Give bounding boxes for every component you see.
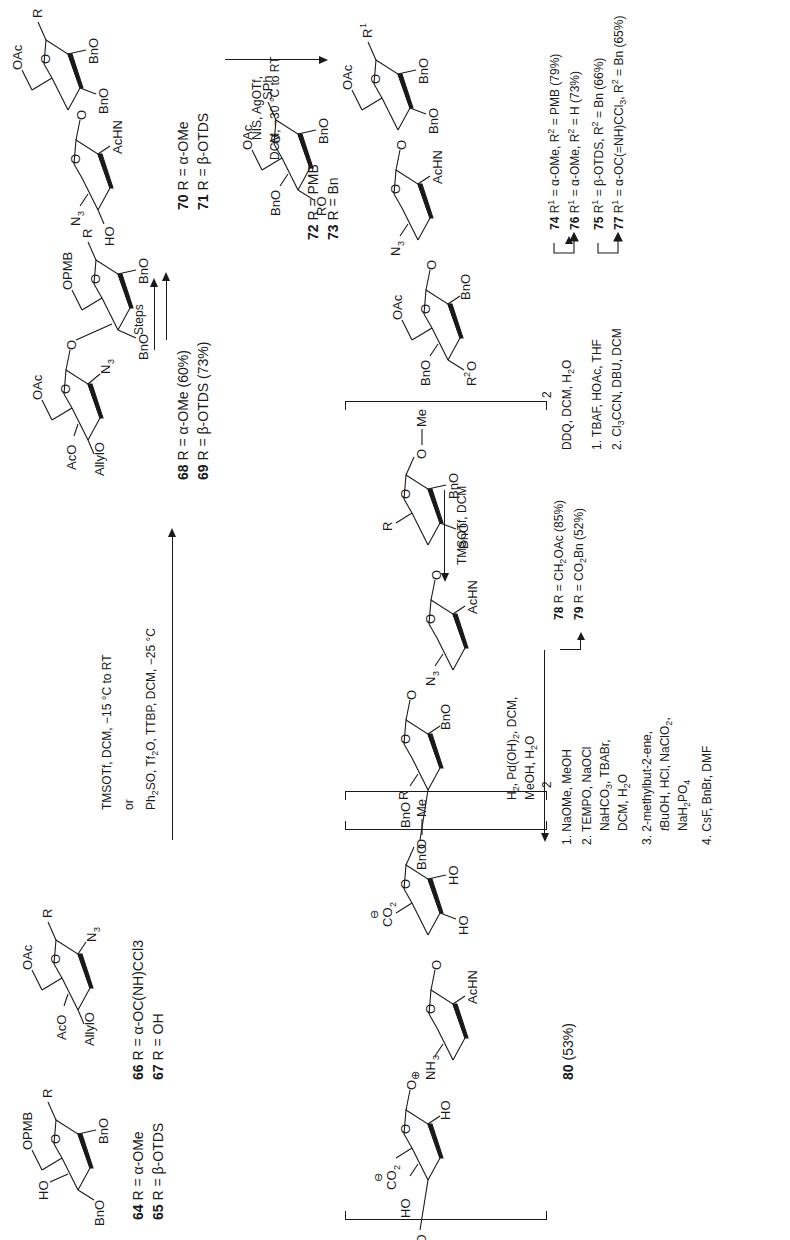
svg-text:3: 3 [431,1055,441,1060]
svg-text:CO: CO [380,908,395,928]
svg-text:AcHN: AcHN [430,150,445,184]
svg-text:3: 3 [431,671,441,676]
svg-text:BnO: BnO [418,360,433,386]
svg-text:O: O [398,734,413,744]
svg-text:3: 3 [92,927,102,932]
svg-text:3: 3 [106,359,116,364]
svg-text:O: O [68,154,83,164]
svg-text:⊖: ⊖ [368,910,380,919]
label-71: 71 R = β-OTDS [195,113,212,210]
svg-text:AcHN: AcHN [110,120,125,154]
svg-text:N: N [423,677,438,686]
svg-text:HO: HO [102,227,117,247]
svg-text:CO: CO [384,1171,399,1191]
svg-text:HO: HO [446,866,461,886]
svg-text:O: O [74,110,89,120]
svg-text:HO: HO [398,1199,413,1219]
reagent-glycosylation-1-line3: Ph2SO, Tf2O, TTBP, DCM, −25 °C [144,628,159,810]
svg-text:O: O [414,449,429,459]
svg-text:R: R [30,9,45,18]
svg-text:OAc: OAc [10,44,25,70]
svg-text:AcO: AcO [64,445,79,470]
svg-text:AllylO: AllylO [92,442,107,476]
svg-text:OAc: OAc [390,294,405,320]
svg-text:OAc: OAc [30,374,45,400]
svg-text:2: 2 [462,372,472,377]
svg-text:O: O [368,74,383,84]
svg-text:O: O [48,1134,63,1144]
label-67: 67 R = OH [150,1013,167,1080]
label-72: 72 R = PMB [305,164,322,240]
structure-70-71: ON3 HOAcHNO OAcOR BnOBnO [10,10,170,250]
svg-text:Me: Me [414,799,429,817]
reaction-scheme: HOOPMBO RBnOBnO 64 R = α-OMe 65 R = β-OT… [0,0,790,1240]
svg-text:R: R [360,29,375,38]
svg-text:1: 1 [358,23,368,28]
svg-text:HO: HO [438,1101,453,1121]
structure-74-77: OAcO BnOR2O BnOO ON3 AcHNO OAcOR1 BnOBnO [340,0,510,400]
svg-text:AllylO: AllylO [82,1012,97,1046]
svg-text:O: O [464,361,479,371]
reagent-glycosylation-1-line2: or [122,799,137,810]
svg-text:N: N [68,217,83,226]
label-69: 69 R = β-OTDS (73%) [195,342,212,480]
svg-text:O: O [58,384,73,394]
reagent-oxidation-step3a: 3. 2-methylbut-2-ene, [640,731,655,845]
structure-66-67: OAcOR AcOAllylON3 [20,880,120,1050]
svg-text:BnO: BnO [268,190,283,216]
label-68: 68 R = α-OMe (60%) [175,350,192,480]
reagent-oxidation-step3c: NaH2PO4 [676,780,691,831]
svg-text:2: 2 [392,1165,402,1170]
svg-text:N: N [84,933,99,942]
repeat-subscript-80: 2 [540,781,555,788]
label-75: 75 R1 = β-OTDS, R2 = Bn (66%) [592,58,607,230]
svg-text:O: O [38,54,53,64]
svg-text:BnO: BnO [426,108,441,134]
svg-text:O: O [398,1124,413,1134]
svg-text:O: O [394,140,409,150]
label-79: 79 R = CO2Bn (52%) [572,508,587,620]
reagent-oxidation-step3b: tBuOH, HCl, NaClO2, [658,717,673,831]
svg-text:HO: HO [36,1181,51,1201]
svg-text:R: R [40,909,55,918]
svg-text:BnO: BnO [416,58,431,84]
svg-text:R: R [464,377,479,386]
svg-text:BnO: BnO [438,704,453,730]
svg-text:OAc: OAc [240,124,255,150]
label-64: 64 R = α-OMe [130,1131,147,1220]
svg-text:NH: NH [423,1061,438,1080]
svg-text:O: O [48,954,63,964]
label-76: 76 R1 = α-OMe, R2 = H (73%) [568,71,583,230]
svg-text:O: O [424,260,439,270]
svg-text:3: 3 [396,241,406,246]
svg-text:OPMB: OPMB [20,1112,35,1150]
svg-text:O: O [64,340,79,350]
svg-text:O: O [423,1004,438,1014]
svg-text:O: O [414,839,429,849]
label-78: 78 R = CH2OAc (85%) [552,500,567,620]
svg-text:O: O [388,184,403,194]
svg-text:⊕: ⊕ [409,1071,421,1080]
reagent-oxidation-step2b: NaHCO3, TBABr, [598,740,613,832]
label-66: 66 R = α-OC(NH)CCl3 [130,940,147,1080]
svg-text:SPh: SPh [260,75,275,100]
elbow-arrow-78-79 [560,635,581,650]
svg-text:O: O [429,570,444,580]
svg-text:N: N [388,247,403,256]
svg-text:AcO: AcO [54,1015,69,1040]
structure-64-65: HOOPMBO RBnOBnO [20,1060,120,1230]
svg-text:BnO: BnO [96,1118,111,1144]
svg-text:OAc: OAc [20,944,35,970]
reaction-arrow-glycosylation-1 [172,530,173,840]
structure-80: O HOCO2⊖ HO HOO ONH3⊕ AcHNO OCO2⊖ HOHO O… [360,790,530,1230]
repeat-subscript-78-79: 2 [540,391,555,398]
svg-text:O: O [268,134,283,144]
svg-text:N: N [98,365,113,374]
reagent-glycosylation-1-line1: TMSOTf, DCM, −15 °C to RT [100,654,115,810]
svg-text:BnO: BnO [456,523,471,549]
label-77: 77 R1 = α-OC(=NH)CCl3, R2 = Bn (65%) [612,16,627,230]
svg-text:O: O [88,274,103,284]
reagent-activation-step2: 2. Cl3CCN, DBU, DCM [610,328,625,450]
label-80: 80 (53%) [560,1023,577,1080]
svg-text:BnO: BnO [86,38,101,64]
